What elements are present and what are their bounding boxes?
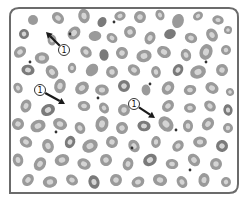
red-blood-cell <box>11 81 24 95</box>
red-blood-cell <box>121 156 135 172</box>
red-blood-cell <box>12 44 29 61</box>
red-blood-cell <box>204 26 221 44</box>
platelet-dot <box>189 169 192 172</box>
red-blood-cell <box>137 120 151 132</box>
red-blood-cell <box>219 43 233 57</box>
red-blood-cell <box>108 172 124 188</box>
red-blood-cell <box>179 47 193 62</box>
red-blood-cell <box>80 137 100 156</box>
red-blood-cell <box>184 103 196 113</box>
red-blood-cell <box>97 101 111 116</box>
red-blood-cell <box>203 80 220 96</box>
red-blood-cell <box>188 63 208 81</box>
red-blood-cell <box>214 138 231 155</box>
red-blood-cell <box>155 44 173 61</box>
red-blood-cell <box>222 103 233 116</box>
red-blood-cell <box>163 27 178 41</box>
red-blood-cell <box>77 100 92 113</box>
red-blood-cell <box>171 62 186 78</box>
red-blood-cell <box>170 138 186 154</box>
red-blood-cell <box>50 10 67 27</box>
red-blood-cell <box>99 49 109 61</box>
arrow-shaft <box>139 107 150 114</box>
platelet-dot <box>29 61 32 64</box>
platelet-dot <box>149 83 152 86</box>
red-blood-cell <box>183 84 197 96</box>
cells-layer <box>10 8 235 190</box>
red-blood-cell <box>77 8 90 24</box>
red-blood-cell <box>105 65 118 78</box>
platelet-dot <box>205 61 208 64</box>
red-blood-cell <box>68 63 77 74</box>
red-blood-cell <box>126 62 143 78</box>
red-blood-cell <box>126 138 142 155</box>
platelet-dot <box>175 129 178 132</box>
red-blood-cell <box>73 120 88 136</box>
red-blood-cell <box>43 63 61 81</box>
red-blood-cell <box>151 135 162 148</box>
red-blood-cell <box>10 116 26 132</box>
red-blood-cell <box>170 12 185 29</box>
red-blood-cell <box>193 136 207 147</box>
red-blood-cell <box>214 62 229 77</box>
red-blood-cell <box>28 15 38 25</box>
red-blood-cell <box>31 155 48 173</box>
red-blood-cell <box>210 158 222 170</box>
red-blood-cell <box>225 87 235 97</box>
red-blood-cell <box>165 158 179 170</box>
red-blood-cell <box>116 78 133 95</box>
micrograph-canvas: 111 <box>0 0 246 205</box>
red-blood-cell <box>63 134 77 150</box>
red-blood-cell <box>39 102 57 119</box>
red-blood-cell <box>78 44 94 60</box>
red-blood-cell <box>135 48 153 64</box>
red-blood-cell <box>132 9 148 25</box>
red-blood-cell <box>65 24 83 42</box>
red-blood-cell <box>21 64 36 77</box>
red-blood-cell <box>98 152 114 168</box>
red-blood-cell <box>223 25 232 34</box>
red-blood-cell <box>42 175 58 188</box>
red-blood-cell <box>130 174 146 189</box>
red-blood-cell <box>123 25 138 40</box>
red-blood-cell <box>191 10 204 23</box>
red-blood-cell <box>154 8 167 22</box>
red-blood-cell <box>20 172 37 189</box>
red-blood-cell <box>64 172 80 187</box>
red-blood-cell <box>222 122 234 134</box>
red-blood-cell <box>17 27 31 41</box>
red-blood-cell <box>174 174 189 190</box>
red-blood-cell <box>87 174 101 190</box>
red-blood-cell <box>151 172 168 187</box>
red-blood-cell <box>160 98 177 115</box>
red-blood-cell <box>141 151 159 169</box>
platelet-dot <box>131 147 134 150</box>
red-blood-cell <box>83 61 101 79</box>
red-blood-cell <box>53 78 67 94</box>
red-blood-cell <box>141 84 151 96</box>
red-blood-cell <box>197 172 210 187</box>
red-blood-cell <box>155 113 176 134</box>
red-blood-cell <box>53 152 70 168</box>
red-blood-cell <box>73 79 92 97</box>
platelet-dot <box>97 97 100 100</box>
red-blood-cell <box>96 15 109 28</box>
red-blood-cell <box>105 135 120 150</box>
platelet-dot <box>69 33 72 36</box>
red-blood-cell <box>199 115 216 133</box>
red-blood-cell <box>142 30 157 46</box>
arrow-shaft <box>45 93 60 101</box>
red-blood-cell <box>105 31 120 45</box>
red-blood-cell <box>12 153 24 168</box>
red-blood-cell <box>35 52 50 64</box>
callout-label: 1 <box>131 100 136 109</box>
red-blood-cell <box>183 31 198 44</box>
red-blood-cell <box>197 42 214 61</box>
red-blood-cell <box>159 79 177 97</box>
red-blood-cell <box>18 134 35 150</box>
red-blood-cell <box>219 175 233 189</box>
callout-1: 1 <box>129 99 156 119</box>
red-blood-cell <box>183 120 194 133</box>
red-blood-cell <box>95 84 110 96</box>
red-blood-cell <box>114 45 131 62</box>
